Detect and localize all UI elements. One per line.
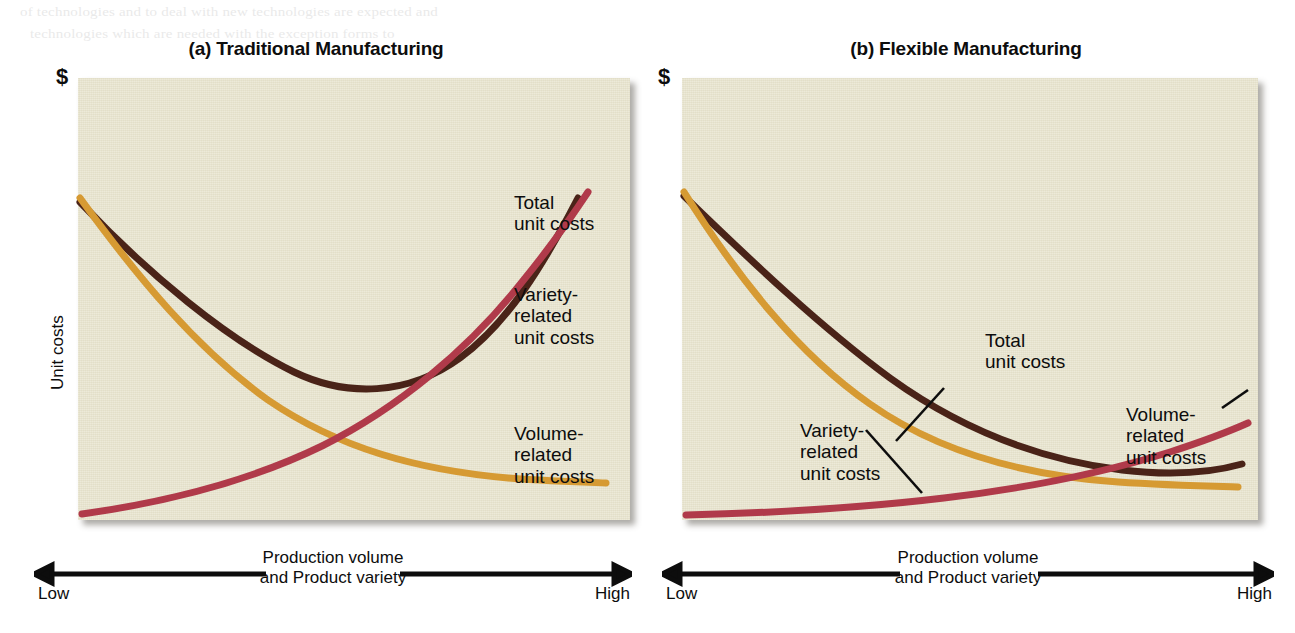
panel-a-x-caption-line-2: and Product variety	[34, 568, 632, 588]
panel-a-x-high-label: High	[595, 584, 630, 604]
leader-line-volume	[1222, 390, 1248, 408]
panel-a-y-axis-label: Unit costs	[48, 315, 68, 390]
panel-a-dollar-symbol: $	[56, 64, 68, 90]
panel-a-variety-line-1: Variety-	[514, 284, 594, 305]
panel-b-label-volume-related-unit-costs: Volume- related unit costs	[1126, 404, 1206, 468]
panel-b-dollar-symbol: $	[658, 64, 670, 90]
panel-b-volume-line-2: related	[1126, 425, 1206, 446]
curve-variety-related-unit-costs	[82, 192, 588, 514]
panel-a-volume-line-3: unit costs	[514, 466, 594, 487]
panel-a-x-axis: Production volume and Product variety Lo…	[34, 548, 632, 618]
panel-a-volume-line-1: Volume-	[514, 423, 594, 444]
panel-a-x-caption-line-1: Production volume	[34, 548, 632, 568]
panel-a-total-line-2: unit costs	[514, 213, 594, 234]
panel-b-volume-line-3: unit costs	[1126, 447, 1206, 468]
panel-b-x-caption-line-1: Production volume	[662, 548, 1274, 568]
panel-a-label-variety-related-unit-costs: Variety- related unit costs	[514, 284, 594, 348]
panel-b-total-line-1: Total	[985, 330, 1065, 351]
panel-a-x-low-label: Low	[38, 584, 69, 604]
panel-a-x-axis-caption: Production volume and Product variety	[34, 548, 632, 587]
panel-b-total-line-2: unit costs	[985, 351, 1065, 372]
panel-b-label-variety-related-unit-costs: Variety- related unit costs	[800, 420, 880, 484]
panel-traditional-manufacturing: (a) Traditional Manufacturing $ Unit cos…	[0, 0, 648, 633]
panel-a-label-total-unit-costs: Total unit costs	[514, 192, 594, 235]
panel-b-x-low-label: Low	[666, 584, 697, 604]
panel-b-x-axis: Production volume and Product variety Lo…	[662, 548, 1274, 618]
panel-flexible-manufacturing: (b) Flexible Manufacturing $ Total unit …	[648, 0, 1295, 633]
panel-a-volume-line-2: related	[514, 444, 594, 465]
panel-b-variety-line-1: Variety-	[800, 420, 880, 441]
panel-a-variety-line-3: unit costs	[514, 327, 594, 348]
panel-a-label-volume-related-unit-costs: Volume- related unit costs	[514, 423, 594, 487]
panel-b-variety-line-2: related	[800, 441, 880, 462]
panel-b-label-total-unit-costs: Total unit costs	[985, 330, 1065, 373]
panel-a-title: (a) Traditional Manufacturing	[0, 38, 640, 60]
panel-b-volume-line-1: Volume-	[1126, 404, 1206, 425]
panel-b-variety-line-3: unit costs	[800, 463, 880, 484]
panel-a-total-line-1: Total	[514, 192, 594, 213]
figure-root: of technologies and to deal with new tec…	[0, 0, 1295, 633]
panel-b-x-axis-caption: Production volume and Product variety	[662, 548, 1274, 587]
panel-b-x-caption-line-2: and Product variety	[662, 568, 1274, 588]
panel-b-x-high-label: High	[1237, 584, 1272, 604]
panel-b-title: (b) Flexible Manufacturing	[656, 38, 1276, 60]
panel-a-variety-line-2: related	[514, 305, 594, 326]
